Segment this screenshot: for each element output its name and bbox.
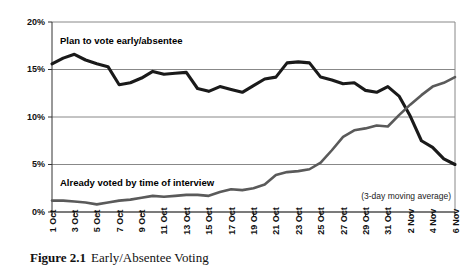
x-axis-label-23-oct: 23 Oct: [294, 207, 304, 235]
y-axis-label-20: 20%: [27, 17, 45, 27]
x-axis-label-25-oct: 25 Oct: [316, 207, 326, 235]
figure-title: Early/Absentee Voting: [91, 250, 209, 265]
x-axis-label-2-nov: 2 Nov: [406, 209, 416, 234]
x-axis-label-19-oct: 19 Oct: [249, 207, 259, 235]
moving-average-note: (3-day moving average): [361, 191, 451, 201]
x-axis-label-7-oct: 7 Oct: [115, 210, 125, 233]
x-axis-label-3-oct: 3 Oct: [70, 210, 80, 233]
y-axis-label-15: 15%: [27, 64, 45, 74]
x-axis-label-17-oct: 17 Oct: [227, 207, 237, 235]
early-absentee-voting-chart: 0%5%10%15%20%1 Oct3 Oct5 Oct7 Oct9 Oct11…: [0, 0, 476, 273]
x-axis-label-11-oct: 11 Oct: [159, 207, 169, 234]
figure-number: Figure 2.1: [30, 250, 86, 265]
x-axis-label-31-oct: 31 Oct: [383, 207, 393, 235]
figure-container: 0%5%10%15%20%1 Oct3 Oct5 Oct7 Oct9 Oct11…: [0, 0, 476, 273]
x-axis-label-1-oct: 1 Oct: [48, 210, 58, 233]
x-axis-label-13-oct: 13 Oct: [182, 207, 192, 235]
y-axis-label-10: 10%: [27, 112, 45, 122]
figure-caption: Figure 2.1Early/Absentee Voting: [30, 250, 209, 266]
x-axis-label-9-oct: 9 Oct: [137, 210, 147, 233]
series1-annotation: Plan to vote early/absentee: [60, 35, 183, 46]
x-axis-label-15-oct: 15 Oct: [204, 207, 214, 235]
x-axis-label-4-nov: 4 Nov: [428, 209, 438, 234]
y-axis-label-5: 5%: [32, 159, 45, 169]
series2-annotation: Already voted by time of interview: [60, 177, 215, 188]
x-axis-label-27-oct: 27 Oct: [339, 207, 349, 235]
x-axis-label-5-oct: 5 Oct: [92, 210, 102, 233]
x-axis-label-29-oct: 29 Oct: [361, 207, 371, 235]
y-axis-label-0: 0%: [32, 207, 45, 217]
x-axis-label-6-nov: 6 Nov: [451, 209, 461, 234]
x-axis-label-21-oct: 21 Oct: [271, 207, 281, 235]
